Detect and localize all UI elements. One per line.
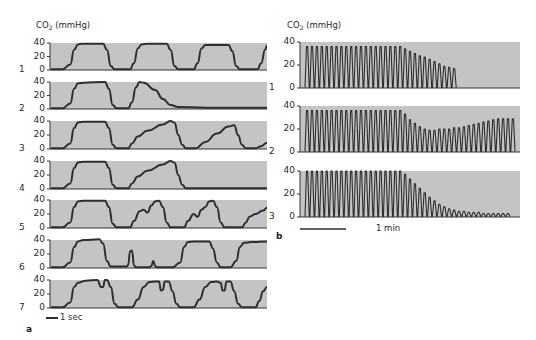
y-tick-label: 0 [23, 262, 45, 272]
y-tick-label: 20 [23, 208, 45, 218]
y-tick-label: 20 [273, 188, 295, 198]
row-label: 1 [269, 82, 275, 92]
y-tick-label: 20 [23, 169, 45, 179]
y-tick-label: 40 [23, 76, 45, 86]
y-tick-label: 40 [23, 115, 45, 125]
y-tick-label: 20 [23, 51, 45, 61]
panel-a-ylabel: CO2 (mmHg) [36, 20, 90, 31]
y-tick-label: 0 [23, 143, 45, 153]
y-tick-label: 20 [273, 59, 295, 69]
y-tick-label: 40 [23, 234, 45, 244]
y-tick-label: 40 [273, 36, 295, 46]
row-label: 2 [19, 103, 25, 113]
plot-area [50, 200, 267, 228]
y-tick-label: 20 [23, 129, 45, 139]
y-tick-label: 0 [23, 103, 45, 113]
y-tick-label: 20 [23, 90, 45, 100]
panel-a-scale-bar-label: 1 sec [60, 312, 82, 322]
y-tick-label: 0 [23, 183, 45, 193]
y-tick-label: 40 [273, 100, 295, 110]
panel-b-ylabel: CO2 (mmHg) [287, 20, 341, 31]
y-tick-label: 40 [273, 165, 295, 175]
capnography-figure [0, 0, 536, 340]
y-tick-label: 40 [23, 37, 45, 47]
row-label: 3 [19, 143, 25, 153]
panel-a-label: a [26, 324, 32, 334]
y-tick-label: 20 [23, 288, 45, 298]
y-tick-label: 40 [23, 194, 45, 204]
row-label: 1 [19, 64, 25, 74]
panel-b-scale-bar-label: 1 min [376, 223, 400, 233]
y-tick-label: 40 [23, 155, 45, 165]
y-tick-label: 0 [273, 146, 295, 156]
y-tick-label: 0 [23, 222, 45, 232]
row-label: 3 [269, 211, 275, 221]
y-tick-label: 0 [23, 302, 45, 312]
y-tick-label: 0 [273, 82, 295, 92]
row-label: 6 [19, 262, 25, 272]
panel-b-label: b [276, 231, 282, 241]
row-label: 4 [19, 183, 25, 193]
y-tick-label: 40 [23, 274, 45, 284]
row-label: 5 [19, 222, 25, 232]
y-tick-label: 20 [23, 248, 45, 258]
y-tick-label: 0 [273, 211, 295, 221]
row-label: 2 [269, 146, 275, 156]
row-label: 7 [19, 302, 25, 312]
y-tick-label: 20 [273, 123, 295, 133]
plot-area [50, 280, 267, 308]
y-tick-label: 0 [23, 64, 45, 74]
